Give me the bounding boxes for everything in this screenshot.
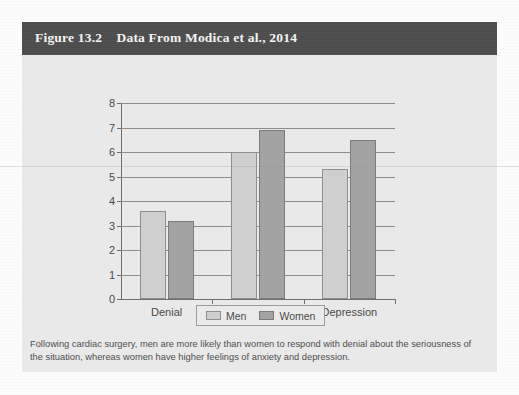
bar-depression-men bbox=[322, 169, 348, 299]
legend-entry-women: Women bbox=[259, 310, 315, 322]
y-axis-tick-label: 7 bbox=[109, 122, 115, 134]
bar-denial-women bbox=[168, 221, 194, 299]
legend-swatch-men-icon bbox=[206, 311, 221, 320]
figure-header-bar: Figure 13.2 Data From Modica et al., 201… bbox=[22, 22, 497, 55]
x-axis-label-depression: Depression bbox=[322, 306, 378, 318]
y-tick-mark bbox=[117, 250, 121, 251]
y-axis-tick-label: 5 bbox=[109, 171, 115, 183]
y-tick-mark bbox=[117, 103, 121, 104]
bar-depression-women bbox=[350, 140, 376, 299]
legend-label-women: Women bbox=[279, 310, 315, 322]
chart-area: 012345678DenialAnxietyDepression Men Wom… bbox=[22, 55, 497, 337]
figure-title: Figure 13.2 Data From Modica et al., 201… bbox=[35, 30, 297, 46]
x-axis-line bbox=[121, 299, 395, 300]
chart-legend: Men Women bbox=[196, 305, 325, 326]
y-tick-mark bbox=[117, 152, 121, 153]
bar-anxiety-men bbox=[231, 152, 257, 299]
gridline bbox=[121, 103, 395, 104]
y-axis-tick-label: 1 bbox=[109, 269, 115, 281]
y-tick-mark bbox=[117, 275, 121, 276]
y-axis-tick-label: 6 bbox=[109, 146, 115, 158]
y-axis-tick-label: 0 bbox=[109, 293, 115, 305]
legend-entry-men: Men bbox=[206, 310, 246, 322]
bar-chart: 012345678DenialAnxietyDepression bbox=[22, 55, 497, 337]
x-tick-mark bbox=[395, 299, 396, 304]
y-tick-mark bbox=[117, 299, 121, 300]
y-axis-tick-label: 2 bbox=[109, 244, 115, 256]
y-tick-mark bbox=[117, 177, 121, 178]
x-tick-mark bbox=[212, 299, 213, 304]
bar-denial-men bbox=[140, 211, 166, 299]
gridline bbox=[121, 128, 395, 129]
y-tick-mark bbox=[117, 201, 121, 202]
x-axis-label-denial: Denial bbox=[151, 306, 182, 318]
legend-label-men: Men bbox=[226, 310, 246, 322]
plot-box: 012345678DenialAnxietyDepression bbox=[121, 103, 395, 299]
y-axis-tick-label: 8 bbox=[109, 97, 115, 109]
y-axis-tick-label: 4 bbox=[109, 195, 115, 207]
figure-caption: Following cardiac surgery, men are more … bbox=[30, 338, 482, 364]
bar-anxiety-women bbox=[259, 130, 285, 299]
y-tick-mark bbox=[117, 226, 121, 227]
legend-swatch-women-icon bbox=[259, 311, 274, 320]
y-axis-tick-label: 3 bbox=[109, 220, 115, 232]
y-tick-mark bbox=[117, 128, 121, 129]
figure-card: Figure 13.2 Data From Modica et al., 201… bbox=[22, 22, 497, 372]
x-tick-mark bbox=[304, 299, 305, 304]
